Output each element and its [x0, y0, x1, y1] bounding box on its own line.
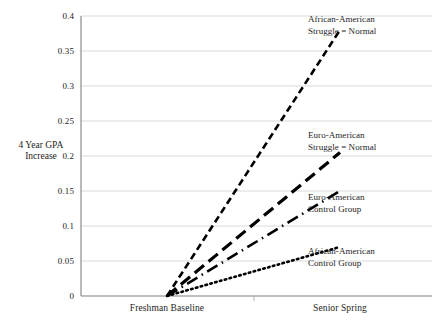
series-label-line2: Struggle = Normal — [308, 26, 376, 38]
y-axis-tick-label: 0.25 — [30, 116, 74, 126]
series-label-line2: Control Group — [308, 258, 375, 270]
x-axis-tick-label-freshman: Freshman Baseline — [110, 303, 224, 313]
gridlines-group — [81, 16, 432, 261]
y-axis-title: 4 Year GPA Increase — [2, 140, 80, 162]
y-axis-tick-label: 0.4 — [30, 11, 74, 21]
series-label-line1: African-American — [308, 246, 375, 258]
series-label-line1: Euro-American — [308, 192, 365, 204]
series-label-line2: Control Group — [308, 204, 365, 216]
series-label-line2: Struggle = Normal — [308, 142, 376, 154]
y-axis-tick-label: 0.05 — [30, 256, 74, 266]
series-label-line1: African-American — [308, 14, 376, 26]
axes-group — [81, 16, 432, 301]
series-label-line1: Euro-American — [308, 130, 376, 142]
series-label: Euro-AmericanStruggle = Normal — [308, 130, 376, 153]
series-label: African-AmericanStruggle = Normal — [308, 14, 376, 37]
x-axis-tick-label-senior: Senior Spring — [288, 303, 392, 313]
series-label: Euro-AmericanControl Group — [308, 192, 365, 215]
series-label: African-AmericanControl Group — [308, 246, 375, 269]
y-axis-title-text: 4 Year GPA Increase — [19, 140, 64, 161]
series-line-long-dash — [167, 153, 340, 297]
chart-container: 00.050.10.150.20.250.30.350.4 Freshman B… — [0, 0, 440, 325]
y-axis-tick-label: 0.3 — [30, 81, 74, 91]
y-axis-tick-label: 0 — [30, 291, 74, 301]
y-axis-tick-label: 0.15 — [30, 186, 74, 196]
y-axis-tick-label: 0.1 — [30, 221, 74, 231]
y-axis-tick-label: 0.35 — [30, 46, 74, 56]
